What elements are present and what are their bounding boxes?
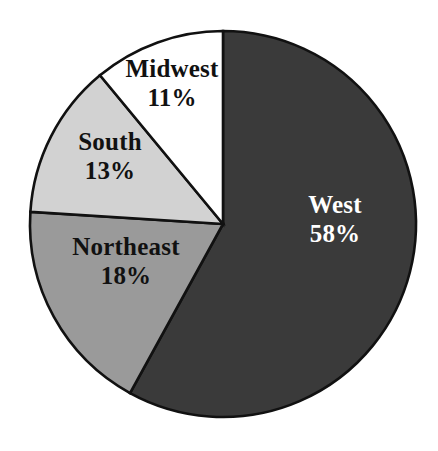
pie-label-south-name: South (46, 128, 174, 157)
pie-label-northeast-name: Northeast (46, 233, 206, 262)
pie-label-midwest-value: 11% (104, 84, 240, 113)
pie-label-west-value: 58% (272, 220, 398, 249)
pie-label-midwest-name: Midwest (104, 55, 240, 84)
pie-label-northeast-value: 18% (46, 262, 206, 291)
pie-label-south: South 13% (46, 128, 174, 185)
pie-label-south-value: 13% (46, 157, 174, 186)
pie-label-midwest: Midwest 11% (104, 55, 240, 112)
pie-chart-figure: Midwest 11% South 13% Northeast 18% West… (0, 0, 438, 451)
pie-label-northeast: Northeast 18% (46, 233, 206, 290)
pie-label-west: West 58% (272, 191, 398, 248)
pie-label-west-name: West (272, 191, 398, 220)
